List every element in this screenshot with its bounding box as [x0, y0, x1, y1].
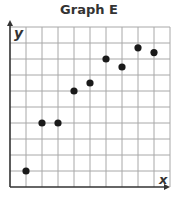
axes [7, 20, 170, 190]
grid-lines [10, 27, 170, 187]
data-point [22, 167, 29, 174]
data-point [86, 79, 93, 86]
data-point [70, 87, 77, 94]
y-axis-label: y [14, 25, 24, 41]
y-axis-arrow-icon [7, 20, 13, 26]
data-point [102, 55, 109, 62]
scatter-plot: y x [0, 0, 178, 202]
data-point [118, 63, 125, 70]
data-point [54, 119, 61, 126]
data-point [134, 44, 141, 51]
data-point [38, 119, 45, 126]
x-axis-label: x [158, 172, 168, 187]
data-point [150, 49, 157, 56]
